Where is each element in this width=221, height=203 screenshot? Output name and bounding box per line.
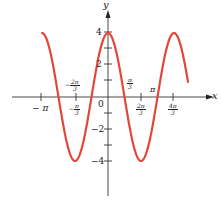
- x-tick-2pi3: 2π 3: [136, 103, 146, 116]
- x-tick-4pi3: 4π 3: [168, 103, 178, 116]
- chart-root: y x 0 4 2 −2 −4 − π − 2π 3 − π 3 π 3 2π …: [0, 0, 221, 203]
- x-tick-neg-2pi3: − 2π 3: [70, 79, 80, 92]
- plot-area: [0, 0, 221, 203]
- origin-label: 0: [98, 100, 104, 109]
- minus-sign: −: [65, 82, 70, 88]
- y-axis-arrow-icon: [106, 10, 111, 18]
- y-axis-label: y: [103, 0, 109, 10]
- minus-sign: −: [69, 106, 74, 112]
- x-tick-pi: π: [150, 86, 155, 94]
- x-axis-label: x: [212, 91, 218, 101]
- y-tick-neg2: −2: [91, 125, 104, 134]
- y-tick-neg4: −4: [91, 157, 104, 166]
- x-tick-pi3: π 3: [127, 77, 133, 90]
- x-tick-neg-pi: − π: [32, 104, 48, 113]
- y-tick-4: 4: [96, 28, 102, 37]
- y-tick-2: 2: [96, 60, 102, 69]
- x-tick-neg-pi3: − π 3: [74, 103, 80, 116]
